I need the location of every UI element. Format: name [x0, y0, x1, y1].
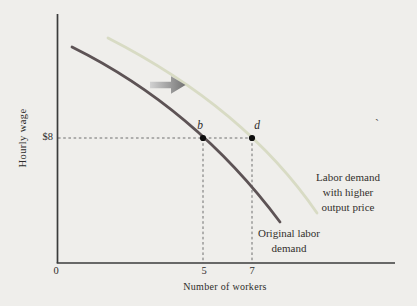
point-b-marker: [200, 135, 206, 141]
shifted-curve-annotation-line1: Labor demand: [316, 170, 380, 185]
point-d-marker: [249, 135, 255, 141]
x-tick-7: 7: [249, 265, 254, 276]
shifted-curve-annotation: Labor demand with higher output price: [316, 170, 380, 215]
shifted-curve-annotation-line3: output price: [316, 200, 380, 215]
chart-canvas: [0, 0, 417, 306]
wage-8-tick-label: $8: [24, 131, 53, 142]
print-artifact-mark: `: [375, 117, 379, 132]
x-tick-5: 5: [201, 265, 206, 276]
shifted-curve-annotation-line2: with higher: [316, 185, 380, 200]
labor-demand-figure: Hourly wage $8 0 5 7 Number of workers b…: [0, 0, 417, 306]
original-curve-annotation-line2: demand: [258, 241, 320, 256]
point-d-label: d: [254, 119, 260, 131]
point-b-label: b: [197, 119, 203, 131]
original-curve-annotation-line1: Original labor: [258, 226, 320, 241]
x-tick-0: 0: [53, 265, 58, 276]
shifted-demand-curve: [108, 38, 317, 213]
original-curve-annotation: Original labor demand: [258, 226, 320, 256]
x-axis-title: Number of workers: [183, 281, 266, 292]
